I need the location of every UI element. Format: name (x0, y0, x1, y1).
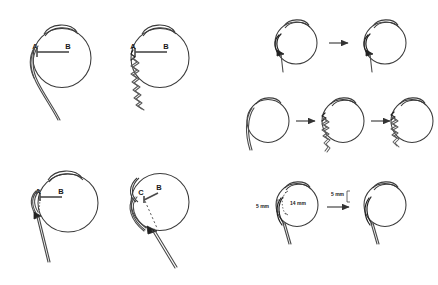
small-eye-smooth (246, 98, 289, 150)
result-measure-bracket (347, 191, 350, 202)
suture-tail-a (152, 230, 175, 268)
needle-arrow (366, 50, 373, 56)
measure-line-c-b (144, 193, 158, 200)
panel-bottom-left: A B (31, 171, 98, 262)
small-eye-zigzag (322, 98, 364, 152)
eye-globe (131, 29, 189, 88)
eye-globe (247, 100, 289, 143)
small-eye-with-measure (364, 182, 406, 244)
point-b-label: B (163, 42, 169, 51)
point-b-label: B (65, 42, 71, 51)
figure-root: A B A B A B (0, 0, 438, 285)
panel-right-row-2 (246, 98, 433, 152)
small-eye-1 (275, 20, 317, 72)
panel-bottom-right: C B (130, 174, 189, 269)
eye-globe (364, 184, 406, 227)
cornea-arc-inner (143, 28, 176, 36)
small-eye-short-zigzag (391, 98, 433, 147)
small-eye-with-measures: 14 mm 5 mm (256, 182, 318, 244)
suture-tail (370, 54, 372, 72)
small-eye-2 (364, 20, 406, 72)
point-b-label: B (58, 187, 64, 196)
suture-tail-b (39, 217, 50, 262)
panel-right-row-1 (275, 20, 406, 72)
panel-top-left: A B (30, 25, 91, 120)
measure-label-result: 5 mm (331, 191, 345, 197)
measure-label-inner: 14 mm (290, 200, 306, 206)
cornea-arc-inner (45, 28, 78, 36)
inner-measure-arc (282, 192, 286, 215)
panel-right-row-3: 14 mm 5 mm 5 mm (256, 182, 406, 244)
figure-svg: A B A B A B (0, 0, 438, 285)
zigzag-thread-2 (324, 119, 330, 152)
suture-tail-b (154, 229, 177, 267)
point-b-label: B (156, 183, 162, 192)
dashed-drop-line (145, 201, 157, 228)
measure-label-outer: 5 mm (256, 203, 270, 209)
suture-tail (281, 54, 283, 72)
needle-arrow (277, 50, 284, 56)
zigzag-thread-shadow (133, 59, 144, 110)
point-c-label: C (138, 188, 144, 197)
panel-top-right: A B (130, 25, 189, 110)
eye-globe (38, 174, 98, 232)
eye-globe (33, 29, 91, 88)
